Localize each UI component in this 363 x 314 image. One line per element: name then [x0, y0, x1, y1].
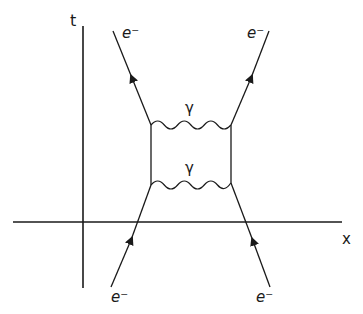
electron-line-outgoing-left [113, 31, 151, 125]
electron-label-outgoing-left: e⁻ [122, 24, 139, 42]
photon-upper [151, 121, 231, 129]
space-axis-label: x [342, 230, 351, 248]
time-axis-label: t [70, 11, 76, 30]
photon-lower [151, 181, 231, 189]
electron-line-incoming-left [111, 185, 151, 287]
electron-label-incoming-right: e⁻ [256, 288, 273, 306]
feynman-diagram: t x γ γ e⁻ e⁻ e⁻ e⁻ [0, 0, 363, 314]
photon-upper-label: γ [185, 99, 194, 117]
electron-label-incoming-left: e⁻ [111, 288, 128, 306]
photon-lower-label: γ [185, 159, 194, 177]
electron-line-incoming-right [231, 183, 270, 287]
electron-label-outgoing-right: e⁻ [247, 24, 264, 42]
electron-line-outgoing-right [231, 31, 269, 125]
